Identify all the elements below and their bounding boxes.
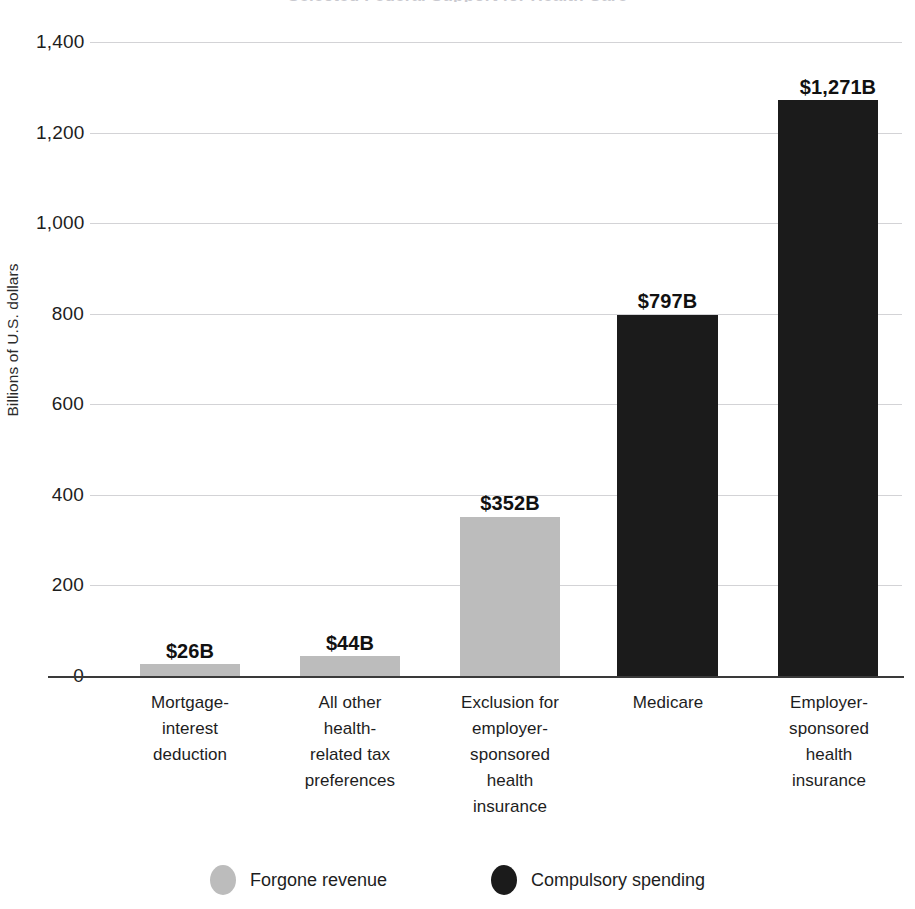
x-label-line: Exclusion for bbox=[440, 690, 580, 716]
x-label-line: preferences bbox=[288, 768, 412, 794]
x-label-line: Medicare bbox=[600, 690, 736, 716]
legend-item-forgone-revenue[interactable]: Forgone revenue bbox=[210, 865, 387, 895]
x-label-line: Mortgage- bbox=[128, 690, 252, 716]
bar-value-label-1: $26B bbox=[140, 640, 240, 663]
legend-label-forgone-revenue: Forgone revenue bbox=[250, 870, 387, 891]
x-label-line: interest bbox=[128, 716, 252, 742]
y-tick-1000: 1,000 bbox=[36, 212, 84, 234]
bar-chart: Selected Federal Support for Health Care… bbox=[0, 0, 915, 909]
bar-employer-sponsored-health-insurance[interactable] bbox=[778, 100, 878, 676]
bar-value-label-5: $1,271B bbox=[753, 76, 915, 99]
gridline-1400 bbox=[90, 42, 902, 43]
x-label-line: sponsored bbox=[762, 716, 896, 742]
bar-all-other-health-related-tax-preferences[interactable] bbox=[300, 656, 400, 676]
bar-value-label-3: $352B bbox=[460, 492, 560, 515]
x-label-line: related tax bbox=[288, 742, 412, 768]
x-axis-line bbox=[48, 676, 904, 678]
y-tick-1200: 1,200 bbox=[36, 122, 84, 144]
x-label-employer-sponsored-health-insurance: Employer- sponsored health insurance bbox=[762, 690, 896, 794]
bar-medicare[interactable] bbox=[617, 315, 718, 676]
x-label-line: sponsored bbox=[440, 742, 580, 768]
x-label-line: insurance bbox=[762, 768, 896, 794]
y-axis-title-text: Billions of U.S. dollars bbox=[4, 263, 22, 416]
x-label-line: health bbox=[440, 768, 580, 794]
x-label-line: health bbox=[762, 742, 896, 768]
legend-item-compulsory-spending[interactable]: Compulsory spending bbox=[491, 865, 705, 895]
y-tick-800: 800 bbox=[36, 303, 84, 325]
x-label-line: health- bbox=[288, 716, 412, 742]
bar-mortgage-interest-deduction[interactable] bbox=[140, 664, 240, 676]
legend-label-compulsory-spending: Compulsory spending bbox=[531, 870, 705, 891]
legend-circle-icon-forgone-revenue bbox=[210, 865, 236, 895]
y-axis-title: Billions of U.S. dollars bbox=[0, 0, 26, 680]
plot-area bbox=[90, 42, 902, 676]
x-label-line: All other bbox=[288, 690, 412, 716]
cropped-chart-title: Selected Federal Support for Health Care bbox=[0, 0, 915, 2]
x-label-mortgage-interest-deduction: Mortgage- interest deduction bbox=[128, 690, 252, 768]
x-label-medicare: Medicare bbox=[600, 690, 736, 716]
x-label-line: employer- bbox=[440, 716, 580, 742]
x-label-line: insurance bbox=[440, 794, 580, 820]
x-label-exclusion-for-employer-sponsored-health-insurance: Exclusion for employer- sponsored health… bbox=[440, 690, 580, 820]
chart-legend: Forgone revenue Compulsory spending bbox=[0, 858, 915, 902]
y-tick-1400: 1,400 bbox=[36, 31, 84, 53]
bar-value-label-2: $44B bbox=[300, 632, 400, 655]
y-tick-200: 200 bbox=[36, 574, 84, 596]
y-tick-400: 400 bbox=[36, 484, 84, 506]
x-label-line: deduction bbox=[128, 742, 252, 768]
bar-value-label-4: $797B bbox=[617, 290, 718, 313]
x-label-all-other-health-related-tax-preferences: All other health- related tax preference… bbox=[288, 690, 412, 794]
bar-exclusion-for-employer-sponsored-health-insurance[interactable] bbox=[460, 517, 560, 676]
y-tick-600: 600 bbox=[36, 393, 84, 415]
legend-circle-icon-compulsory-spending bbox=[491, 865, 517, 895]
x-label-line: Employer- bbox=[762, 690, 896, 716]
